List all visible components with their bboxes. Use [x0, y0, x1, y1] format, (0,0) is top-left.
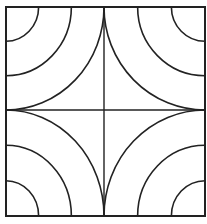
tile-diagram [0, 0, 207, 224]
corner-arcs [6, 7, 205, 216]
arc-top-left-2 [6, 7, 71, 76]
arc-bottom-right-3 [104, 110, 205, 216]
arc-top-left-3 [6, 7, 104, 110]
arc-bottom-left-3 [6, 110, 104, 216]
arc-top-right-3 [104, 7, 205, 110]
center-cross [6, 7, 205, 216]
arc-bottom-right-1 [171, 181, 205, 216]
arc-bottom-right-2 [138, 145, 205, 216]
square-border [6, 7, 205, 216]
arc-top-right-2 [138, 7, 205, 76]
outer-square [6, 7, 205, 216]
arc-top-right-1 [171, 7, 205, 41]
arc-bottom-left-1 [6, 181, 39, 216]
arc-top-left-1 [6, 7, 39, 41]
arc-bottom-left-2 [6, 145, 71, 216]
